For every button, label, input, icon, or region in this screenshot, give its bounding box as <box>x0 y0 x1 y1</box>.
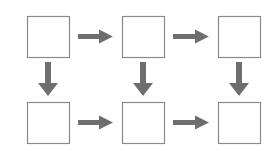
node-box-r2c1 <box>28 103 70 144</box>
arrow-right-icon <box>78 30 113 44</box>
flow-diagram <box>0 0 276 151</box>
node-box-r1c3 <box>219 17 261 58</box>
arrow-right-icon <box>173 30 209 44</box>
arrow-right-icon <box>78 116 113 130</box>
arrow-down-icon <box>133 62 153 96</box>
arrow-right-icon <box>173 116 209 130</box>
arrow-down-icon <box>38 62 58 96</box>
node-box-r2c3 <box>219 103 261 144</box>
arrow-down-icon <box>229 62 249 96</box>
node-box-r1c1 <box>28 17 70 58</box>
node-box-r2c2 <box>123 103 165 144</box>
node-box-r1c2 <box>123 17 165 58</box>
